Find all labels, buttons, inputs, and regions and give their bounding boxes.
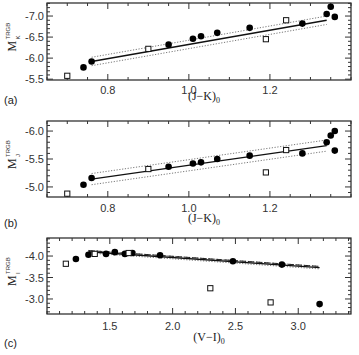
fit-line xyxy=(92,20,327,61)
x-tick-label: 2.0 xyxy=(165,320,180,332)
data-point-filled xyxy=(165,41,172,48)
fit-line xyxy=(92,146,327,180)
data-point-open xyxy=(63,261,68,266)
data-point-filled xyxy=(112,249,119,256)
x-axis-label: (V−I)0 xyxy=(193,330,224,346)
data-point-open xyxy=(146,166,151,171)
data-point-open xyxy=(65,73,70,78)
x-tick-label: 1.5 xyxy=(102,320,117,332)
panel-label: (c) xyxy=(4,337,17,349)
y-axis-label: MTRGBK xyxy=(5,23,21,52)
data-point-filled xyxy=(299,150,306,157)
fit-band-line xyxy=(92,151,327,185)
svg-text:M: M xyxy=(5,158,19,169)
data-point-open xyxy=(146,46,151,51)
data-point-filled xyxy=(323,139,330,146)
y-tick-label: -5.5 xyxy=(25,153,44,165)
plot-frame xyxy=(47,3,351,80)
y-tick-label: -6.5 xyxy=(25,31,44,43)
data-point-filled xyxy=(230,258,237,265)
data-point-filled xyxy=(331,128,338,135)
data-point-open xyxy=(284,147,289,152)
data-point-filled xyxy=(190,160,197,167)
data-point-open xyxy=(92,251,97,256)
data-point-filled xyxy=(279,261,286,268)
x-tick-label: 0.8 xyxy=(100,202,115,214)
y-tick-label: -6.0 xyxy=(25,52,44,64)
data-point-open xyxy=(208,286,213,291)
y-tick-label: -7.0 xyxy=(25,10,44,22)
data-point-filled xyxy=(80,64,87,71)
plot-frame xyxy=(47,121,351,197)
panel-label: (b) xyxy=(4,217,17,229)
data-point-open xyxy=(268,300,273,305)
fit-band-line xyxy=(92,140,327,174)
data-point-filled xyxy=(88,58,95,65)
panel-label: (a) xyxy=(4,94,17,106)
panel-b: 0.81.01.2-6.0-5.5-5.0(b)(J−K)0MTRGBJ xyxy=(4,121,351,229)
y-tick-label: -3.0 xyxy=(25,293,44,305)
data-point-filled xyxy=(103,251,110,258)
data-point-filled xyxy=(85,251,92,258)
data-point-filled xyxy=(327,3,334,10)
x-tick-label: 0.8 xyxy=(100,84,115,96)
x-axis-label: (J−K)0 xyxy=(188,211,220,227)
data-point-filled xyxy=(246,152,253,159)
x-axis-label: (J−K)0 xyxy=(188,89,220,105)
data-point-filled xyxy=(316,301,323,308)
svg-text:I: I xyxy=(15,272,21,274)
y-tick-label: -3.5 xyxy=(25,272,44,284)
data-point-filled xyxy=(198,159,205,166)
data-point-open xyxy=(65,191,70,196)
data-point-filled xyxy=(80,181,87,188)
trgb-color-magnitude-figure: 0.81.01.2-7.0-6.5-6.0-5.5(a)(J−K)0MTRGBK… xyxy=(0,0,359,355)
data-point-filled xyxy=(88,175,95,182)
y-axis-label: MTRGBI xyxy=(5,257,21,286)
y-tick-label: -4.0 xyxy=(25,250,44,262)
y-tick-label: -5.5 xyxy=(25,73,44,85)
fit-band-line xyxy=(92,16,327,57)
svg-text:K: K xyxy=(15,35,21,39)
x-tick-label: 1.2 xyxy=(262,202,277,214)
panel-a: 0.81.01.2-7.0-6.5-6.0-5.5(a)(J−K)0MTRGBK xyxy=(4,3,351,106)
data-point-filled xyxy=(190,35,197,42)
panel-c: 1.52.02.53.0-4.0-3.5-3.0(c)(V−I)0MTRGBI xyxy=(4,238,351,349)
fit-band-line xyxy=(92,24,327,65)
data-point-filled xyxy=(214,30,221,37)
data-point-filled xyxy=(246,25,253,32)
y-tick-label: -6.0 xyxy=(25,125,44,137)
data-point-filled xyxy=(331,14,338,21)
data-point-filled xyxy=(157,252,164,259)
data-point-filled xyxy=(323,11,330,18)
data-point-open xyxy=(263,170,268,175)
plot-frame xyxy=(47,238,351,314)
svg-text:TRGB: TRGB xyxy=(5,257,11,274)
svg-text:J: J xyxy=(15,154,21,157)
x-tick-label: 2.5 xyxy=(228,320,243,332)
data-point-filled xyxy=(214,156,221,163)
data-point-filled xyxy=(299,20,306,27)
data-point-filled xyxy=(331,147,338,154)
y-axis-label: MTRGBJ xyxy=(5,140,21,169)
svg-text:TRGB: TRGB xyxy=(5,23,11,40)
x-tick-label: 1.2 xyxy=(262,84,277,96)
y-tick-label: -5.0 xyxy=(25,181,44,193)
data-point-open xyxy=(263,37,268,42)
svg-text:M: M xyxy=(5,275,19,286)
x-tick-label: 3.0 xyxy=(291,320,306,332)
data-point-filled xyxy=(73,256,80,263)
svg-text:M: M xyxy=(5,41,19,52)
data-point-open xyxy=(284,18,289,23)
data-point-filled xyxy=(165,164,172,171)
svg-text:TRGB: TRGB xyxy=(5,140,11,157)
data-point-open xyxy=(126,250,131,255)
data-point-filled xyxy=(198,33,205,40)
